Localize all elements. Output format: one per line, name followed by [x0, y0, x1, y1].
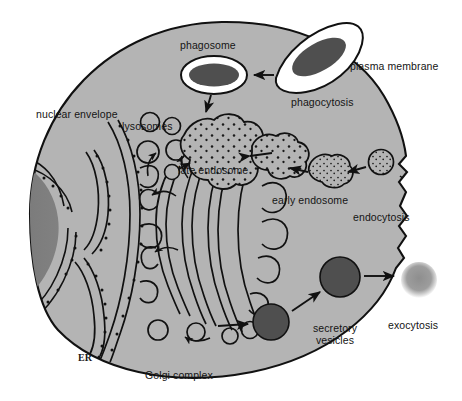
secretory-vesicle-2: [320, 257, 360, 297]
label-exocytosis: exocytosis: [388, 319, 438, 331]
endocytic-vesicle: [369, 150, 394, 175]
phagosome: [181, 56, 247, 94]
label-endocytosis: endocytosis: [353, 211, 410, 223]
cell-diagram-figure: phagosome plasma membrane phagocytosis n…: [0, 0, 462, 401]
label-late-endosome: late endosome: [178, 164, 248, 176]
label-early-endosome: early endosome: [272, 194, 348, 206]
label-phagosome: phagosome: [180, 39, 236, 51]
label-nuclear-envelope: nuclear envelope: [36, 108, 118, 120]
label-lysosomes: lysosomes: [122, 120, 173, 132]
label-er: ER: [78, 352, 92, 364]
label-golgi-complex: Golgi complex: [145, 369, 213, 381]
label-phagocytosis: phagocytosis: [291, 96, 354, 108]
label-plasma-membrane: plasma membrane: [350, 60, 438, 72]
label-secretory-vesicles-line2: vesicles: [316, 334, 354, 346]
label-secretory-vesicles: secretory vesicles: [300, 322, 370, 346]
released-vesicle: [401, 262, 437, 298]
label-secretory-vesicles-line1: secretory: [313, 322, 357, 334]
secretory-vesicle-1: [253, 304, 289, 340]
